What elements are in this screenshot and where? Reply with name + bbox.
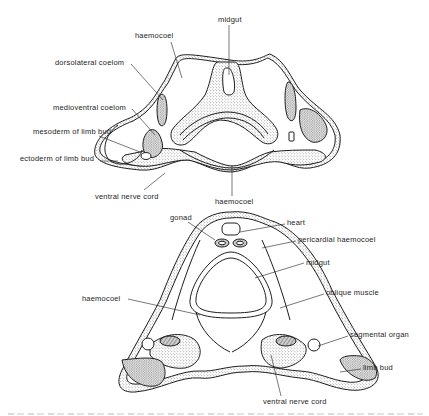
label-pericardial-haemocoel: pericardial haemocoel <box>298 235 376 244</box>
label-ventral-nerve-cord-top: ventral nerve cord <box>95 192 159 201</box>
label-limb-bud: limb bud <box>363 363 393 372</box>
label-segmental-organ: segmental organ <box>350 330 409 339</box>
label-haemocoel-upper: haemocoel <box>135 31 174 40</box>
label-gonad: gonad <box>170 213 192 222</box>
figure-canvas: haemocoel midgut dorsolateral coelom med… <box>0 0 429 416</box>
figure-caption-cropped <box>8 411 423 416</box>
caption-fragment <box>8 413 423 415</box>
label-midgut-top: midgut <box>218 15 242 24</box>
label-dorsolateral-coelom: dorsolateral coelom <box>55 58 124 67</box>
label-oblique-muscle: oblique muscle <box>326 288 379 297</box>
top-cross-section <box>95 54 341 172</box>
label-medioventral-coelom: medioventral coelom <box>53 103 126 112</box>
label-haemocoel-bottom: haemocoel <box>82 294 121 303</box>
label-heart: heart <box>287 218 305 227</box>
label-ventral-nerve-cord-bottom: ventral nerve cord <box>263 397 327 406</box>
label-haemocoel-lower: haemocoel <box>215 197 254 206</box>
label-ectoderm-of-limb-bud: ectoderm of limb bud <box>20 154 94 163</box>
label-mesoderm-of-limb-bud: mesoderm of limb bud <box>33 127 111 136</box>
label-midgut-bottom: midgut <box>306 258 330 267</box>
